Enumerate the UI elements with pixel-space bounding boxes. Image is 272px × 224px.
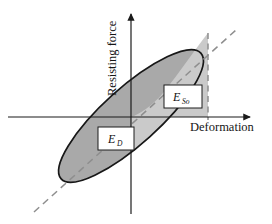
dissipated-energy-label: E D bbox=[98, 127, 134, 150]
dissipated-energy-label-box bbox=[98, 127, 134, 150]
x-axis-label: Deformation bbox=[190, 120, 255, 134]
y-axis-label: Resisting force bbox=[105, 20, 119, 96]
stored-energy-label: E So bbox=[164, 85, 202, 108]
hysteresis-diagram-canvas: Deformation Resisting force E D E So bbox=[0, 0, 272, 224]
dissipated-energy-subscript: D bbox=[116, 139, 123, 148]
dissipated-energy-symbol: E bbox=[107, 132, 116, 146]
stored-energy-symbol: E bbox=[172, 90, 181, 104]
stored-energy-subscript: So bbox=[182, 97, 190, 106]
hysteresis-loop-figure: Deformation Resisting force E D E So bbox=[0, 0, 272, 224]
